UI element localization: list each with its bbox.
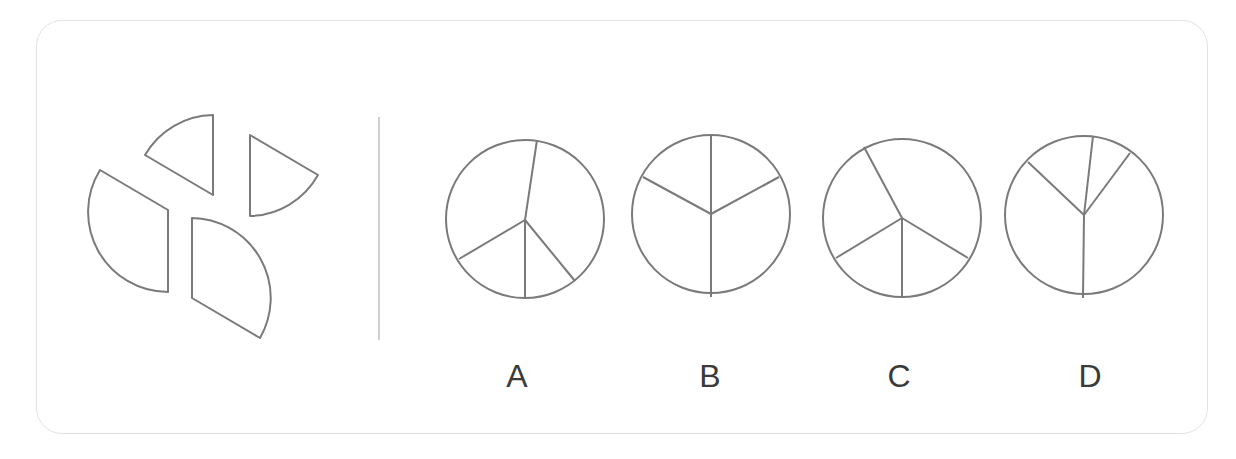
- answer-options: [446, 135, 1163, 298]
- piece-right: [250, 135, 318, 216]
- piece-bottom: [192, 218, 271, 338]
- option-label-c[interactable]: C: [869, 358, 929, 395]
- option-c[interactable]: [823, 139, 981, 298]
- piece-top: [145, 115, 213, 195]
- option-a[interactable]: [446, 140, 604, 298]
- option-label-d[interactable]: D: [1060, 358, 1120, 395]
- piece-left: [88, 170, 168, 292]
- option-d[interactable]: [1005, 136, 1163, 298]
- option-spoke: [1083, 215, 1084, 298]
- option-label-a[interactable]: A: [487, 358, 547, 395]
- puzzle-canvas: [0, 0, 1236, 459]
- option-label-b[interactable]: B: [680, 358, 740, 395]
- question-pieces: [88, 115, 318, 338]
- option-b[interactable]: [632, 135, 790, 297]
